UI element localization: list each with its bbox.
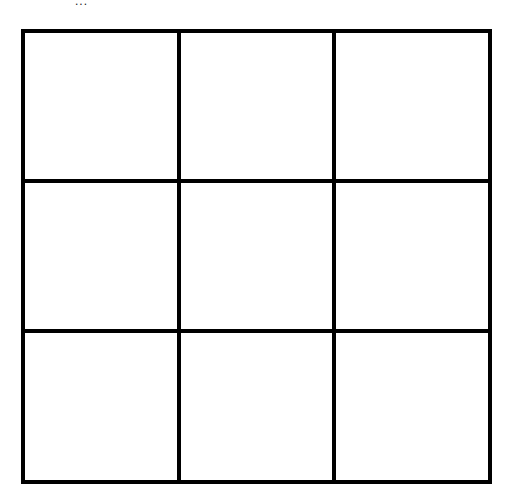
cell-1-0[interactable]: [25, 183, 177, 329]
tic-tac-toe-board: [21, 29, 492, 484]
cell-2-0[interactable]: [25, 333, 177, 480]
cell-2-1[interactable]: [181, 333, 332, 480]
cell-0-2[interactable]: [336, 33, 488, 179]
cell-0-0[interactable]: [25, 33, 177, 179]
cell-0-1[interactable]: [181, 33, 332, 179]
cell-2-2[interactable]: [336, 333, 488, 480]
cell-1-1[interactable]: [181, 183, 332, 329]
top-ellipsis-mark: ...: [75, 0, 88, 8]
cell-1-2[interactable]: [336, 183, 488, 329]
